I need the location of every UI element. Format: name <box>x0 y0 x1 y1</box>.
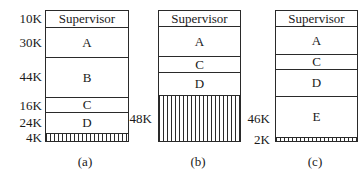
segment-a: A <box>275 27 358 55</box>
segment-c: C <box>158 57 241 73</box>
panel-caption: (c) <box>295 154 335 170</box>
segment-label: E <box>313 109 321 125</box>
panel-caption: (a) <box>65 154 105 170</box>
size-label: 2K <box>230 132 270 148</box>
segment-label: Supervisor <box>59 11 115 27</box>
segment-label: Supervisor <box>288 11 344 27</box>
panel-caption: (b) <box>178 154 218 170</box>
segment-b: B <box>45 58 129 98</box>
segment-label: D <box>82 115 91 131</box>
segment-label: A <box>312 33 321 49</box>
segment-free <box>158 96 241 142</box>
size-label: 30K <box>2 35 42 51</box>
segment-d: D <box>158 73 241 96</box>
segment-free <box>275 138 358 142</box>
size-label: 48K <box>112 111 152 127</box>
size-label: 24K <box>2 115 42 131</box>
segment-label: Supervisor <box>171 11 227 27</box>
size-label: 44K <box>2 69 42 85</box>
segment-d: D <box>275 70 358 97</box>
segment-supervisor: Supervisor <box>158 10 241 27</box>
segment-label: C <box>312 54 321 70</box>
segment-label: D <box>195 76 204 92</box>
segment-c: C <box>275 55 358 70</box>
segment-label: C <box>83 97 92 113</box>
segment-supervisor: Supervisor <box>275 10 358 27</box>
size-label: 16K <box>2 98 42 114</box>
segment-supervisor: Supervisor <box>45 10 129 28</box>
segment-label: A <box>195 34 204 50</box>
segment-label: A <box>82 35 91 51</box>
segment-free <box>45 134 129 142</box>
memory-panel-c: Supervisor A C D E <box>275 10 358 142</box>
memory-panel-b: Supervisor A C D <box>158 10 241 142</box>
segment-label: B <box>83 70 92 86</box>
segment-label: D <box>312 75 321 91</box>
segment-a: A <box>45 28 129 58</box>
size-label: 10K <box>2 11 42 27</box>
segment-e: E <box>275 97 358 138</box>
size-label: 46K <box>230 111 270 127</box>
segment-a: A <box>158 27 241 57</box>
segment-label: C <box>195 57 204 73</box>
size-label: 4K <box>2 130 42 146</box>
